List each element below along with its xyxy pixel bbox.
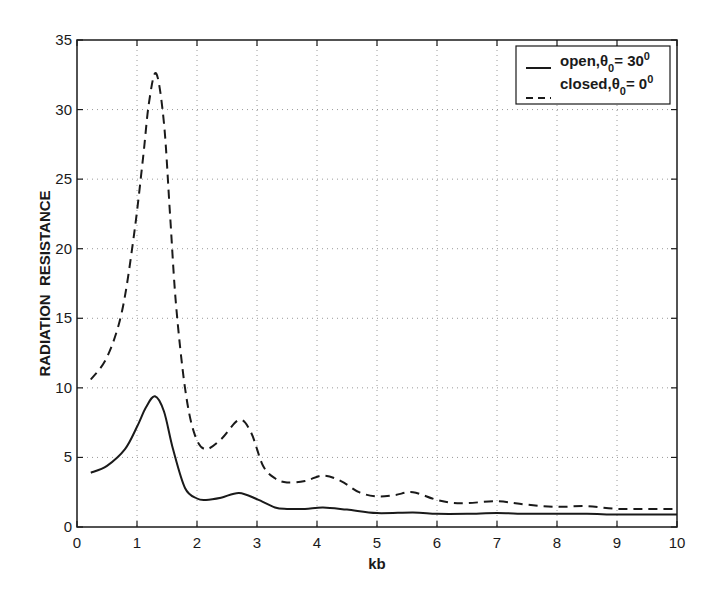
x-tick-label: 1 xyxy=(133,534,141,551)
y-tick-labels: 05101520253035 xyxy=(55,31,72,535)
x-tick-label: 10 xyxy=(669,534,686,551)
y-tick-label: 15 xyxy=(55,309,72,326)
axis-ticks xyxy=(77,40,677,527)
x-tick-label: 7 xyxy=(493,534,501,551)
data-series xyxy=(91,73,677,515)
y-tick-label: 20 xyxy=(55,240,72,257)
x-tick-label: 5 xyxy=(373,534,381,551)
x-tick-label: 0 xyxy=(73,534,81,551)
y-tick-label: 0 xyxy=(64,518,72,535)
legend: open,θ0= 300closed,θ0= 00 xyxy=(516,46,670,104)
y-tick-label: 5 xyxy=(64,448,72,465)
y-tick-label: 30 xyxy=(55,101,72,118)
x-tick-labels: 012345678910 xyxy=(73,534,686,551)
grid-lines xyxy=(77,40,677,527)
x-tick-label: 2 xyxy=(193,534,201,551)
x-tick-label: 4 xyxy=(313,534,321,551)
y-tick-label: 25 xyxy=(55,170,72,187)
plot-frame xyxy=(77,40,677,527)
radiation-resistance-chart: 012345678910 05101520253035 kb RADIATION… xyxy=(0,0,715,595)
closed-series-line xyxy=(91,73,677,509)
x-tick-label: 8 xyxy=(553,534,561,551)
x-tick-label: 6 xyxy=(433,534,441,551)
x-tick-label: 3 xyxy=(253,534,261,551)
x-axis-label: kb xyxy=(368,555,386,572)
y-tick-label: 10 xyxy=(55,379,72,396)
y-tick-label: 35 xyxy=(55,31,72,48)
x-tick-label: 9 xyxy=(613,534,621,551)
y-axis-label: RADIATION RESISTANCE xyxy=(36,190,53,376)
